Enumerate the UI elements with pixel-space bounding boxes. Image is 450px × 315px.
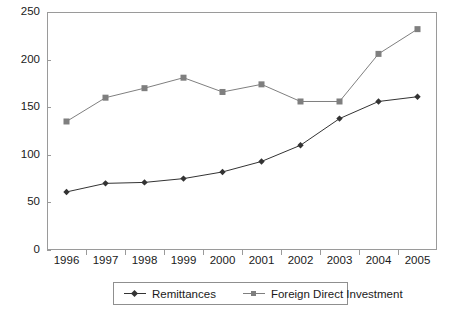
data-point: [376, 51, 382, 57]
data-point: [180, 175, 186, 181]
x-tick-mark: [398, 250, 399, 255]
x-axis: 1996199719981999200020012002200320042005: [47, 254, 437, 274]
x-tick-mark: [203, 250, 204, 255]
y-axis: 050100150200250: [0, 12, 40, 250]
legend: Remittances Foreign Direct Investment: [113, 282, 348, 305]
series-layer: [47, 12, 437, 250]
data-point: [219, 169, 225, 175]
data-point: [297, 142, 303, 148]
series-remittances: [63, 94, 420, 196]
legend-marker-square-icon: [243, 289, 265, 299]
x-tick-mark: [164, 250, 165, 255]
y-tick-label: 0: [6, 244, 40, 256]
x-tick-mark: [359, 250, 360, 255]
y-tick-label: 100: [6, 149, 40, 161]
legend-entry-remittances[interactable]: Remittances: [124, 288, 216, 300]
data-point: [63, 189, 69, 195]
data-point: [102, 180, 108, 186]
y-tick-label: 200: [6, 54, 40, 66]
y-tick-mark: [47, 250, 51, 251]
data-point: [259, 81, 265, 87]
y-tick-label: 150: [6, 101, 40, 113]
x-tick-mark: [281, 250, 282, 255]
data-point: [220, 89, 226, 95]
y-tick-label: 50: [6, 196, 40, 208]
data-point: [298, 98, 304, 104]
y-tick-label: 250: [6, 6, 40, 18]
legend-marker-diamond-icon: [124, 289, 146, 299]
data-point: [258, 158, 264, 164]
y-tick-mark: [47, 155, 51, 156]
plot-area: [47, 12, 437, 250]
y-tick-mark: [47, 12, 51, 13]
line-chart-figure: 050100150200250 199619971998199920002001…: [0, 0, 450, 315]
x-tick-label: 2005: [393, 254, 443, 267]
legend-label: Remittances: [152, 288, 216, 300]
data-point: [64, 118, 70, 124]
data-point: [337, 98, 343, 104]
x-tick-mark: [320, 250, 321, 255]
legend-entry-foreign-direct-investment[interactable]: Foreign Direct Investment: [243, 288, 403, 300]
data-point: [336, 115, 342, 121]
data-point: [375, 98, 381, 104]
x-tick-mark: [86, 250, 87, 255]
x-tick-mark: [242, 250, 243, 255]
series-foreign-direct-investment: [64, 26, 421, 124]
x-tick-mark: [125, 250, 126, 255]
y-tick-mark: [47, 107, 51, 108]
data-point: [103, 95, 109, 101]
data-point: [415, 26, 421, 32]
data-point: [142, 85, 148, 91]
data-point: [181, 75, 187, 81]
data-point: [141, 179, 147, 185]
y-tick-mark: [47, 202, 51, 203]
series-line: [67, 97, 418, 192]
y-tick-mark: [47, 60, 51, 61]
legend-label: Foreign Direct Investment: [271, 288, 403, 300]
data-point: [414, 94, 420, 100]
